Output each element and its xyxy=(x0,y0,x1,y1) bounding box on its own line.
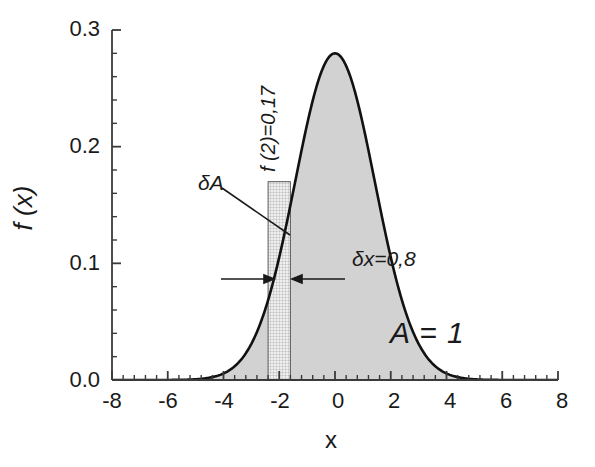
total-area-label: A = 1 xyxy=(390,318,465,348)
chart-figure: 0.3 0.2 0.1 0.0 -8 -6 -4 -2 0 2 4 6 8 f … xyxy=(0,0,595,467)
y-axis-title: f (x) xyxy=(10,168,36,248)
y-tick-label: 0.3 xyxy=(30,18,100,40)
y-tick-label: 0.2 xyxy=(30,135,100,157)
x-tick-label: 2 xyxy=(374,390,414,412)
y-tick-label: 0.1 xyxy=(30,252,100,274)
x-axis-title: x xyxy=(325,428,337,452)
x-tick-label: 8 xyxy=(542,390,582,412)
x-tick-label: -8 xyxy=(92,390,132,412)
x-axis-ticks xyxy=(112,371,558,380)
y-axis-ticks xyxy=(112,30,121,380)
f-of-two-label: f (2)=0,17 xyxy=(258,86,278,172)
x-tick-label: -4 xyxy=(204,390,244,412)
y-tick-label: 0.0 xyxy=(30,369,100,391)
x-tick-label: -6 xyxy=(148,390,188,412)
x-tick-label: 0 xyxy=(318,390,358,412)
x-tick-label: 4 xyxy=(430,390,470,412)
x-tick-label: 6 xyxy=(486,390,526,412)
x-tick-label: -2 xyxy=(260,390,300,412)
delta-x-label: δx=0,8 xyxy=(352,248,416,269)
curve-area xyxy=(112,53,558,380)
delta-area-label: δA xyxy=(198,172,224,193)
